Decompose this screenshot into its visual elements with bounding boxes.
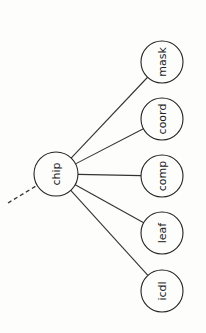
- node-label: mask: [156, 47, 169, 77]
- node-mask: mask: [141, 41, 183, 83]
- tree-diagram: chipmaskcoordcompleaficdl: [0, 0, 206, 333]
- node-label: comp: [156, 161, 169, 191]
- edge-chip-coord: [76, 129, 144, 164]
- edge-chip-comp: [78, 174, 141, 175]
- node-label: icdl: [156, 281, 169, 300]
- node-icdl: icdl: [141, 270, 183, 312]
- node-label: leaf: [156, 222, 169, 244]
- node-label: coord: [156, 104, 169, 135]
- node-chip: chip: [34, 152, 78, 196]
- edge-chip-leaf: [75, 185, 143, 223]
- node-comp: comp: [141, 155, 183, 197]
- node-label: chip: [50, 162, 63, 185]
- node-leaf: leaf: [141, 212, 183, 254]
- incoming-dashed-edge: [8, 186, 36, 203]
- node-coord: coord: [141, 98, 183, 140]
